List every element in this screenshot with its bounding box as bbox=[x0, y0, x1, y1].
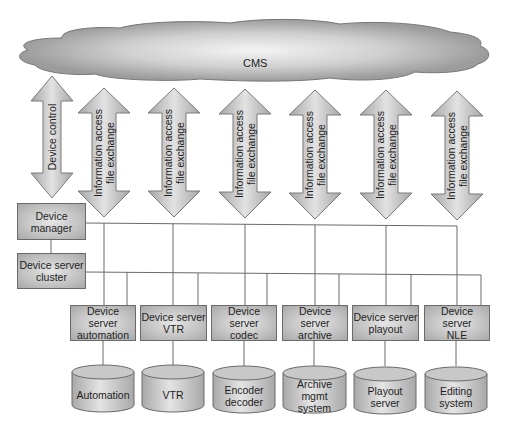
info-line2: file exchange bbox=[315, 105, 327, 205]
system-archive-label: Archive mgmt system bbox=[283, 381, 346, 411]
device-server-archive-box: Device server archive bbox=[282, 305, 348, 341]
server-line2: VTR bbox=[163, 323, 184, 335]
system-line2: system bbox=[439, 397, 472, 409]
connector-lines bbox=[51, 223, 481, 366]
info-line2: file exchange bbox=[457, 106, 469, 206]
device-server-automation-box: Device server automation bbox=[70, 305, 136, 341]
cluster-line1: Device server bbox=[19, 259, 83, 271]
device-server-vtr-box: Device server VTR bbox=[140, 305, 207, 341]
server-line2: playout bbox=[369, 323, 403, 335]
system-line1: Archive mgmt bbox=[283, 378, 346, 402]
system-editing-label: Editing system bbox=[425, 382, 487, 412]
info-line2: file exchange bbox=[104, 103, 116, 203]
info-arrow-label-2: Information access file exchange bbox=[162, 103, 186, 203]
info-line1: Information access bbox=[445, 106, 457, 206]
info-arrow-label-3: Information access file exchange bbox=[233, 104, 257, 204]
device-manager-line1: Device bbox=[35, 210, 67, 222]
system-line1: Encoder bbox=[224, 384, 263, 396]
info-line1: Information access bbox=[233, 104, 245, 204]
device-manager-line2: manager bbox=[31, 222, 72, 234]
server-line2: NLE bbox=[447, 329, 467, 341]
system-line1: Playout bbox=[367, 385, 402, 397]
info-line2: file exchange bbox=[245, 104, 257, 204]
system-line1: Editing bbox=[440, 385, 472, 397]
server-line1: Device server bbox=[353, 311, 417, 323]
server-line2: archive bbox=[298, 329, 332, 341]
info-line1: Information access bbox=[303, 105, 315, 205]
server-line1: Device server bbox=[425, 305, 489, 329]
cms-cloud bbox=[20, 19, 489, 81]
system-playout-label: Playout server bbox=[354, 382, 416, 412]
device-server-playout-box: Device server playout bbox=[352, 305, 419, 341]
server-line1: Device server bbox=[283, 305, 347, 329]
cluster-line2: cluster bbox=[36, 271, 67, 283]
system-line1: Automation bbox=[76, 389, 129, 401]
device-server-nle-box: Device server NLE bbox=[424, 305, 490, 341]
system-automation-label: Automation bbox=[72, 380, 134, 410]
device-control-text: Device control bbox=[46, 92, 58, 182]
info-arrow-label-5: Information access file exchange bbox=[374, 105, 398, 205]
system-line2: system bbox=[298, 402, 331, 414]
system-line2: decoder bbox=[225, 396, 263, 408]
system-line2: server bbox=[370, 397, 399, 409]
device-server-codec-box: Device server codec bbox=[211, 305, 277, 341]
cms-label: CMS bbox=[243, 57, 267, 69]
system-vtr-label: VTR bbox=[142, 380, 204, 410]
device-control-label: Device control bbox=[46, 92, 58, 182]
server-line2: codec bbox=[230, 329, 258, 341]
system-line1: VTR bbox=[163, 389, 184, 401]
device-server-cluster-box: Device server cluster bbox=[17, 253, 86, 289]
info-arrow-label-6: Information access file exchange bbox=[445, 106, 469, 206]
info-line1: Information access bbox=[92, 103, 104, 203]
system-encoder-label: Encoder decoder bbox=[213, 381, 275, 411]
device-manager-box: Device manager bbox=[17, 203, 86, 240]
server-line1: Device server bbox=[141, 311, 205, 323]
server-line1: Device server bbox=[71, 305, 135, 329]
server-line2: automation bbox=[77, 329, 129, 341]
info-line1: Information access bbox=[162, 103, 174, 203]
info-arrow-label-1: Information access file exchange bbox=[92, 103, 116, 203]
info-line1: Information access bbox=[374, 105, 386, 205]
info-line2: file exchange bbox=[174, 103, 186, 203]
info-line2: file exchange bbox=[386, 105, 398, 205]
info-arrow-label-4: Information access file exchange bbox=[303, 105, 327, 205]
server-line1: Device server bbox=[212, 305, 276, 329]
